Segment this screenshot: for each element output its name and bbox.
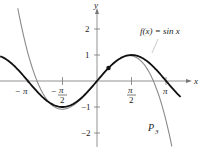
x-axis-label: x <box>193 76 198 86</box>
f-label-leader <box>152 39 158 53</box>
tangent-point <box>106 66 110 70</box>
x-tick-neg-pi-minus: − <box>15 86 20 96</box>
p3-label-sub: 3 <box>154 128 159 136</box>
y-tick-neg-2: −2 <box>81 128 91 138</box>
f-label: f(x) = sin x <box>140 26 180 36</box>
y-tick-neg-1: −1 <box>81 102 91 112</box>
p3-label: P <box>147 122 154 133</box>
x-tick-half-num: π <box>128 85 133 95</box>
y-axis-label: y <box>93 0 98 10</box>
x-tick-pi: π <box>163 86 168 96</box>
x-tick-half-den: 2 <box>129 95 134 105</box>
x-tick-neg-half-num: π <box>59 85 64 95</box>
x-tick-neg-half-den: 2 <box>60 95 65 105</box>
x-tick-neg-half-minus: − <box>51 86 56 96</box>
chart: y x − π − π 2 π 2 π 2 1 −1 −2 f(x) = sin… <box>0 0 212 147</box>
x-axis-arrow-icon <box>186 79 192 83</box>
x-tick-neg-pi: π <box>23 86 28 96</box>
y-tick-2: 2 <box>85 24 90 34</box>
y-tick-1: 1 <box>85 50 90 60</box>
